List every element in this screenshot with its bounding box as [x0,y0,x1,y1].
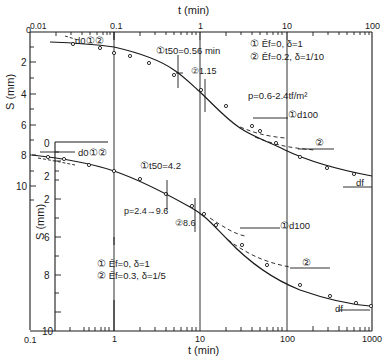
svg-text:10: 10 [42,326,54,337]
upper-d100-1-label: ①d100 [288,109,318,120]
lower-legend-1: ① Ēf=0, δ=1 [97,258,150,269]
upper-y-axis-label: S (mm) [4,74,16,110]
svg-text:10: 10 [282,21,292,31]
svg-text:1: 1 [112,334,117,344]
svg-text:2: 2 [44,194,50,205]
consolidation-figure: 0 0.01 0.1 1 10 100 t (min) 2 4 6 8 10 S… [0,0,391,357]
svg-text:10: 10 [16,181,28,192]
svg-text:100: 100 [280,334,295,344]
svg-text:4: 4 [21,89,27,100]
svg-text:2: 2 [21,57,27,68]
lower-load-label: p=2.4→9.6 [124,206,168,216]
lower-y-axis-label: S (mm) [34,204,46,240]
lower-curves [32,152,373,310]
upper-t50-label: ①t50=0.56 min [156,45,220,56]
svg-text:1000: 1000 [362,334,382,344]
svg-text:0.1: 0.1 [110,21,123,31]
upper-x-tick-labels: 0 0.01 0.1 1 10 100 [26,21,380,35]
svg-text:6: 6 [21,120,27,131]
lower-d100-1-label: ①d100 [280,220,310,231]
lower-legend-2: ② Ēf=0.3, δ=1/5 [97,270,166,281]
svg-text:1: 1 [198,21,203,31]
upper-t50-2-label: ②1.15 [191,66,217,76]
upper-df-label: df [356,177,364,188]
upper-load-label: p=0.6-2.4tf/m² [248,90,307,101]
lower-y-tick-2: 2 [44,171,50,182]
upper-y-tick-labels: 2 4 6 8 10 [16,57,28,192]
lower-df-label: df [335,303,343,314]
bottom-axis-title: t (min) [188,344,219,356]
upper-legend-2: ② Ēf=0.2, δ=1/10 [250,51,324,62]
svg-text:8: 8 [44,270,50,281]
lower-t50-label: ①t50=4.2 [140,160,181,171]
upper-chart [30,32,372,331]
decade-lines [114,40,287,331]
top-axis-title: t (min) [178,4,209,16]
lower-d0-label: d0①② [78,147,107,158]
lower-t50-2-label: ②8.6 [175,218,196,228]
svg-text:10: 10 [195,334,205,344]
svg-text:0: 0 [44,138,50,149]
lower-d100-2-label: ② [302,257,311,268]
svg-text:100: 100 [365,21,380,31]
upper-d100-2-label: ② [315,137,324,148]
svg-text:0.1: 0.1 [24,335,37,345]
svg-text:8: 8 [21,150,27,161]
upper-legend-1: ① Ēf=0, δ=1 [250,38,303,49]
svg-text:0.01: 0.01 [30,21,47,31]
upper-d0-label: d0①② [75,35,104,46]
lower-chart [30,142,372,331]
